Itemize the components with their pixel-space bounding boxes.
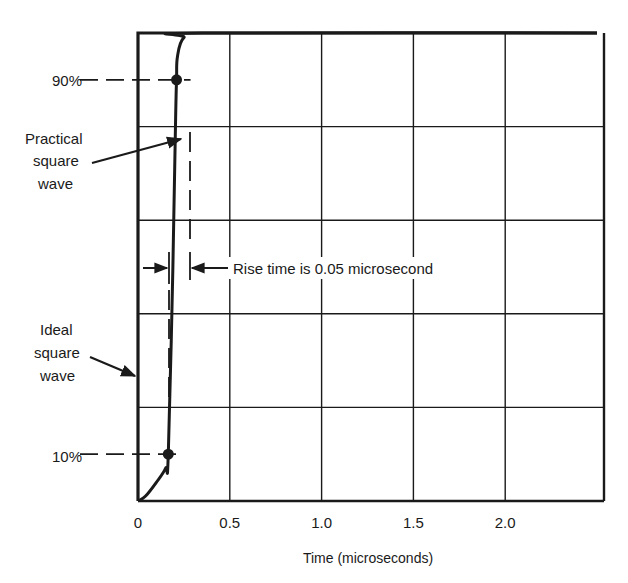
ideal-label-line-3: wave: [39, 367, 75, 384]
x-tick-label: 2.0: [495, 514, 516, 531]
marker-10-percent: [163, 449, 174, 460]
rise-time-diagram: 00.51.01.52.0 90% 10% Practical square w…: [0, 0, 628, 583]
x-tick-label: 0: [134, 514, 142, 531]
marker-90-percent: [171, 74, 182, 85]
practical-label-line-3: wave: [37, 175, 73, 192]
x-tick-labels: 00.51.01.52.0: [134, 514, 516, 531]
rise-time-indicator: [143, 252, 228, 284]
practical-wave-label: Practical square wave: [25, 130, 83, 192]
x-tick-label: 1.5: [403, 514, 424, 531]
practical-label-line-2: square: [33, 152, 79, 169]
x-tick-label: 0.5: [219, 514, 240, 531]
label-90-percent: 90%: [52, 72, 82, 89]
x-axis-title: Time (microseconds): [303, 550, 433, 566]
practical-label-line-1: Practical: [25, 130, 83, 147]
label-10-percent: 10%: [52, 448, 82, 465]
ideal-wave-arrow: [90, 357, 135, 376]
plot-svg: 00.51.01.52.0 90% 10% Practical square w…: [0, 0, 628, 583]
rise-time-label: Rise time is 0.05 microsecond: [233, 260, 433, 277]
x-tick-label: 1.0: [311, 514, 332, 531]
ideal-label-line-2: square: [34, 344, 80, 361]
ideal-label-line-1: Ideal: [40, 321, 73, 338]
ideal-wave-label: Ideal square wave: [34, 321, 80, 384]
